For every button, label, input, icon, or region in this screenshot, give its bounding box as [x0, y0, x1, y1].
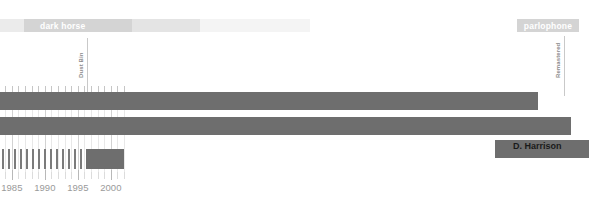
- event-tick-3: [20, 149, 22, 169]
- axis-label-1990: 1990: [34, 182, 55, 193]
- axis-tick-1992: [58, 172, 59, 179]
- axis-tick-1984: [5, 172, 6, 179]
- annotation-label-dust-bin: Dust Bin: [78, 53, 84, 78]
- event-tick-11: [68, 149, 70, 169]
- axis-tick-1986: [18, 172, 19, 179]
- axis-tick-2002: [124, 172, 125, 179]
- event-tick-9: [56, 149, 58, 169]
- axis-tick-1999: [104, 172, 105, 179]
- axis-label-2000: 2000: [100, 182, 121, 193]
- axis-label-1985: 1985: [1, 182, 22, 193]
- axis-tick-1996: [84, 172, 85, 179]
- annotation-leader-line-right: [564, 36, 565, 96]
- axis-tick-1995: [78, 170, 79, 180]
- category-band-parlophone-label: parlophone: [524, 21, 572, 31]
- activity-bar-row-2: [0, 117, 571, 135]
- category-band-dark-horse-label: dark horse: [40, 21, 85, 31]
- activity-bar-harrison-label: D. Harrison: [513, 141, 562, 151]
- event-tick-7: [44, 149, 46, 169]
- axis-tick-1985: [12, 170, 13, 180]
- axis-tick-2001: [117, 172, 118, 179]
- event-tick-10: [62, 149, 64, 169]
- event-tick-13: [80, 149, 82, 169]
- axis-tick-1988: [32, 172, 33, 179]
- event-tick-0: [2, 149, 4, 169]
- axis-tick-1994: [71, 172, 72, 179]
- event-tick-4: [26, 149, 28, 169]
- axis-tick-2000: [111, 170, 112, 180]
- event-tick-2: [14, 149, 16, 169]
- annotation-leader-line-left: [87, 38, 88, 96]
- category-band-dark-horse: dark horse: [0, 19, 310, 32]
- event-tick-12: [74, 149, 76, 169]
- event-tick-5: [32, 149, 34, 169]
- axis-tick-1997: [91, 172, 92, 179]
- event-tick-6: [38, 149, 40, 169]
- event-strip-block: [86, 149, 124, 169]
- event-tick-1: [8, 149, 10, 169]
- event-tick-8: [50, 149, 52, 169]
- axis-tick-1987: [25, 172, 26, 179]
- axis-tick-1993: [65, 172, 66, 179]
- axis-tick-1998: [98, 172, 99, 179]
- annotation-label-remastered: Remastered: [555, 43, 561, 78]
- axis-label-1995: 1995: [67, 182, 88, 193]
- axis-tick-1989: [38, 172, 39, 179]
- axis-tick-1991: [51, 172, 52, 179]
- activity-bar-row-1: [0, 92, 538, 110]
- timeline-chart: dark horse parlophone Dust Bin Remastere…: [0, 0, 589, 204]
- axis-tick-1990: [45, 170, 46, 180]
- category-band-parlophone: parlophone: [517, 19, 579, 32]
